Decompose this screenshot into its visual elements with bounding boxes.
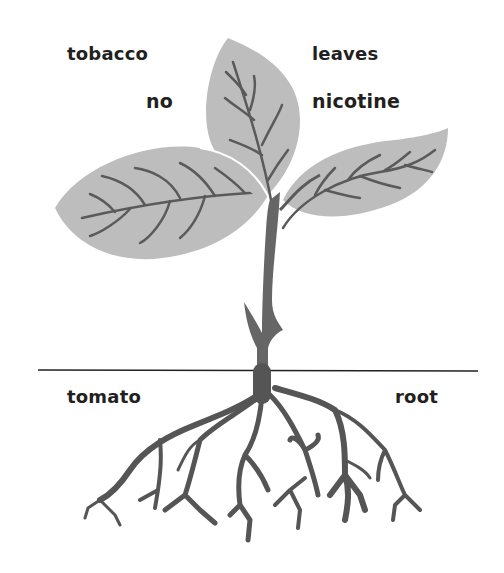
graft-diagram: tobacco leaves no nicotine tomato root: [0, 0, 504, 573]
label-no: no: [146, 92, 173, 111]
label-leaves: leaves: [312, 45, 378, 63]
label-root: root: [395, 388, 438, 406]
right-leaf-icon: [283, 128, 448, 228]
label-nicotine: nicotine: [312, 92, 400, 111]
label-tobacco: tobacco: [67, 45, 148, 63]
label-tomato: tomato: [67, 388, 141, 406]
